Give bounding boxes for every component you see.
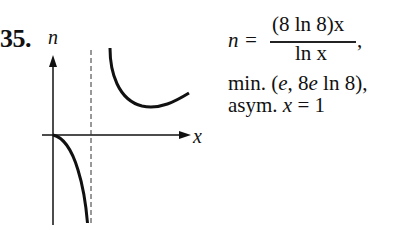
fraction-denominator: ln x — [295, 43, 327, 64]
asym-prefix: asym. — [228, 93, 283, 117]
asym-suffix: = 1 — [292, 93, 325, 117]
min-e: e — [278, 71, 287, 95]
fraction-numerator: (8 ln 8)x — [272, 14, 344, 35]
function-graph — [0, 0, 210, 230]
min-mid: , 8 — [288, 71, 309, 95]
y-axis-arrowhead-icon — [49, 55, 57, 67]
y-axis-label: n — [48, 26, 58, 49]
equation-lhs-text: n = — [228, 28, 258, 52]
min-suffix: ln 8), — [318, 71, 368, 95]
min-prefix: min. ( — [228, 71, 278, 95]
asym-var: x — [283, 93, 292, 117]
x-axis-arrowhead-icon — [179, 131, 191, 139]
curve-left-branch — [53, 135, 88, 223]
asymptote-note: asym. x = 1 — [228, 95, 325, 116]
equation-lhs: n = — [228, 30, 258, 51]
curve-right-branch — [110, 48, 189, 107]
minimum-note: min. (e, 8e ln 8), — [228, 73, 367, 94]
x-axis-label: x — [193, 125, 202, 148]
min-e2: e — [309, 71, 318, 95]
equation-comma: , — [357, 30, 362, 51]
